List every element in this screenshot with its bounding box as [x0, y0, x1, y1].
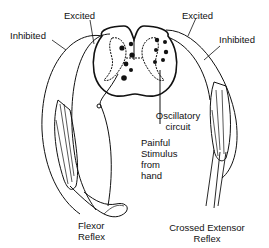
spinal-cord-section	[93, 26, 176, 96]
label-excited-right: Excited	[182, 10, 213, 21]
left-nerve-pathways	[42, 34, 118, 214]
label-crossed-line2: Reflex	[148, 233, 266, 244]
label-oscillatory-line1: Oscillatory	[143, 110, 213, 121]
label-stimulus-line3: from	[141, 159, 177, 170]
label-flexor-reflex: Flexor Reflex	[78, 220, 105, 242]
label-flexor-line1: Flexor	[78, 220, 105, 231]
right-arm-extended	[206, 82, 231, 208]
label-stimulus-line1: Painful	[141, 137, 177, 148]
label-crossed-line1: Crossed Extensor	[148, 222, 266, 233]
label-crossed-extensor-reflex: Crossed Extensor Reflex	[148, 222, 266, 244]
label-oscillatory-circuit: Oscillatory circuit	[143, 110, 213, 132]
left-arm-flexed	[55, 100, 128, 217]
label-oscillatory-line2: circuit	[143, 121, 213, 132]
label-inhibited-left: Inhibited	[10, 30, 46, 41]
label-leaders	[52, 18, 220, 60]
label-painful-stimulus: Painful Stimulus from hand	[141, 137, 177, 181]
label-inhibited-right: Inhibited	[219, 34, 255, 45]
label-stimulus-line4: hand	[141, 170, 177, 181]
label-stimulus-line2: Stimulus	[141, 148, 177, 159]
label-excited-left: Excited	[64, 10, 95, 21]
label-flexor-line2: Reflex	[78, 231, 105, 242]
